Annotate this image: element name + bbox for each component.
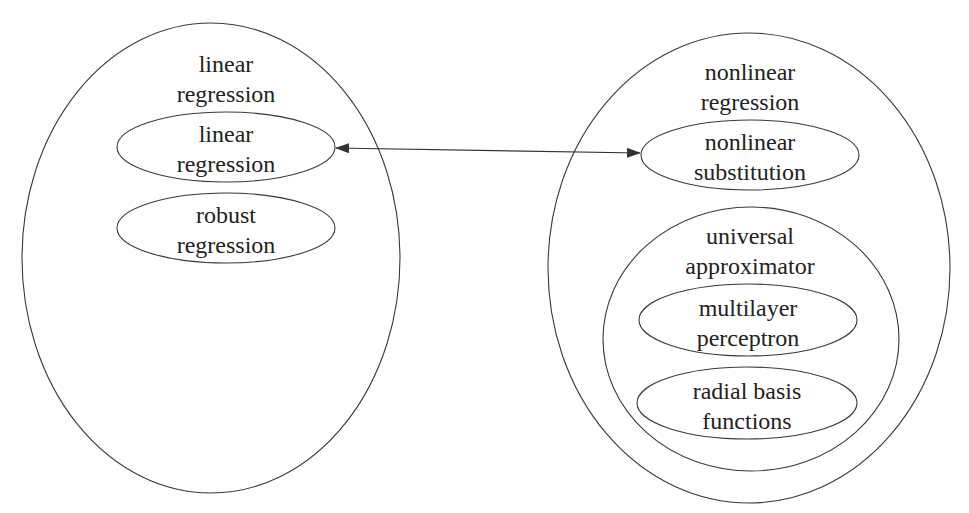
linear-regression-node-label-line1: linear	[199, 121, 254, 147]
robust-regression-node: robust regression	[117, 193, 335, 263]
robust-regression-node-label-line1: robust	[196, 202, 256, 228]
robust-regression-node-label-line2: regression	[177, 232, 276, 258]
multilayer-perceptron-node: multilayer perceptron	[639, 284, 857, 356]
nonlinear-regression-group-label-line2: regression	[701, 89, 800, 115]
nonlinear-substitution-node-label-line2: substitution	[694, 159, 806, 185]
radial-basis-functions-node-label-line1: radial basis	[693, 378, 802, 404]
nonlinear-regression-group-label-line1: nonlinear	[705, 59, 796, 85]
linear-regression-node-label-line2: regression	[177, 151, 276, 177]
multilayer-perceptron-node-label-line2: perceptron	[697, 325, 800, 351]
linear-regression-node: linear regression	[117, 112, 335, 182]
radial-basis-functions-node-label-line2: functions	[702, 408, 791, 434]
universal-approximator-group: universal approximator multilayer percep…	[603, 207, 899, 471]
nonlinear-substitution-node: nonlinear substitution	[641, 120, 859, 190]
nonlinear-regression-group: nonlinear regression nonlinear substitut…	[548, 33, 950, 503]
nonlinear-substitution-node-label-line1: nonlinear	[705, 129, 796, 155]
bidirectional-arrow-edge	[336, 148, 640, 153]
universal-approximator-group-label-line2: approximator	[685, 253, 814, 279]
linear-regression-group-label-line1: linear	[199, 51, 254, 77]
linear-regression-group: linear regression linear regression robu…	[22, 23, 400, 493]
multilayer-perceptron-node-label-line1: multilayer	[699, 295, 798, 321]
diagram-canvas: linear regression linear regression robu…	[0, 0, 969, 513]
universal-approximator-group-label-line1: universal	[706, 223, 794, 249]
linear-regression-group-label-line2: regression	[177, 81, 276, 107]
radial-basis-functions-node: radial basis functions	[637, 367, 857, 439]
